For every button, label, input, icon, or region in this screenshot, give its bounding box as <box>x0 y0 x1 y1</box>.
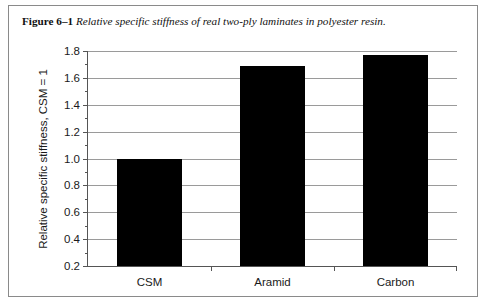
bar-chart: Relative specific stiffness, CSM = 1 1.8… <box>9 6 479 298</box>
y-axis-tick-label: 0.4 <box>64 233 80 245</box>
y-axis-tick-minor <box>85 226 89 227</box>
y-axis-tick-minor <box>85 64 89 65</box>
y-axis-tick-major <box>83 132 88 133</box>
y-axis-tick-major <box>83 78 88 79</box>
y-axis-tick-major <box>83 159 88 160</box>
y-axis-tick-label: 1.6 <box>64 72 80 84</box>
x-axis-tick-label: Carbon <box>377 276 415 288</box>
figure-container: Figure 6–1 Relative specific stiffness o… <box>8 5 478 297</box>
y-axis-tick-minor <box>85 199 89 200</box>
y-axis-tick-major <box>83 239 88 240</box>
y-axis-label-text: Relative specific stiffness, CSM = 1 <box>37 69 49 249</box>
bar-csm <box>117 159 182 267</box>
x-axis-tick <box>211 266 212 271</box>
y-axis-tick-label: 1.8 <box>64 45 80 57</box>
y-axis-tick-minor <box>85 172 89 173</box>
x-axis-tick-label: Aramid <box>254 276 290 288</box>
y-axis-tick-major <box>83 212 88 213</box>
y-axis-tick-minor <box>85 253 89 254</box>
y-axis-label: Relative specific stiffness, CSM = 1 <box>35 51 51 266</box>
y-axis-tick-minor <box>85 91 89 92</box>
y-axis-tick-major <box>83 185 88 186</box>
x-axis-tick-label: CSM <box>137 276 163 288</box>
plot-area: 1.81.61.41.21.00.80.60.40.2CSMAramidCarb… <box>87 51 457 267</box>
y-axis-tick-label: 0.2 <box>64 260 80 272</box>
y-axis-tick-major <box>83 266 88 267</box>
x-axis-tick-end <box>456 266 457 271</box>
y-axis-tick-label: 0.6 <box>64 206 80 218</box>
x-axis-tick <box>334 266 335 271</box>
bar-carbon <box>363 55 428 266</box>
y-axis-tick-major <box>83 105 88 106</box>
y-axis-tick-major <box>83 51 88 52</box>
y-axis-tick-minor <box>85 118 89 119</box>
y-axis-tick-label: 1.4 <box>64 99 80 111</box>
gridline <box>88 51 457 52</box>
y-axis-tick-label: 1.0 <box>64 153 80 165</box>
y-axis-tick-label: 0.8 <box>64 179 80 191</box>
y-axis-tick-minor <box>85 145 89 146</box>
bar-aramid <box>240 66 305 266</box>
y-axis-tick-label: 1.2 <box>64 126 80 138</box>
